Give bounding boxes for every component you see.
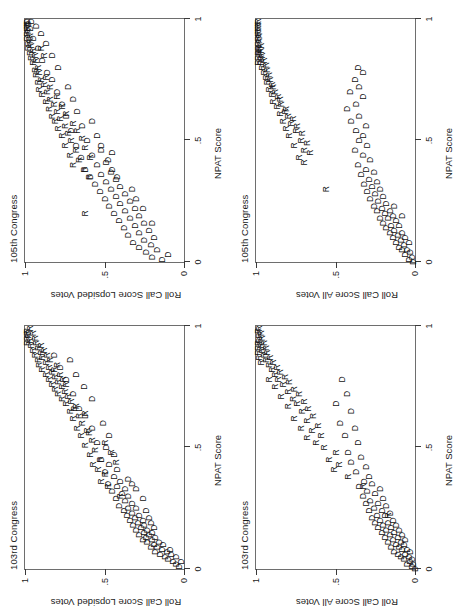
data-point-D: D <box>99 420 108 426</box>
data-point-D: D <box>379 193 388 199</box>
data-point-R: R <box>72 403 81 409</box>
data-point-R: R <box>57 103 66 109</box>
data-point-D: D <box>354 162 363 168</box>
data-point-R: R <box>95 457 104 463</box>
data-point-D: D <box>369 169 378 175</box>
data-point-R: R <box>37 342 46 348</box>
data-point-R: R <box>73 128 82 134</box>
data-point-R: R <box>111 459 120 465</box>
data-point-R: R <box>290 415 299 421</box>
data-point-D: D <box>361 123 370 129</box>
data-point-D: D <box>88 396 97 402</box>
panel-105th-lopsided: 105th Congress Roll Call Score Lopsided … <box>0 0 231 307</box>
data-point-D: D <box>108 150 117 156</box>
data-point-D: D <box>65 357 74 363</box>
data-point-D: D <box>358 94 367 100</box>
data-point-D: D <box>97 171 106 177</box>
data-point-R: R <box>62 381 71 387</box>
data-point-D: D <box>376 186 385 192</box>
data-point-D: D <box>129 239 138 245</box>
y-axis-tick-label: .5 <box>100 578 110 586</box>
y-axis-tick-label: 1 <box>20 578 30 583</box>
data-point-D: D <box>366 157 375 163</box>
panel-title: 105th Congress <box>239 195 250 263</box>
x-axis-tick-label: 1 <box>424 16 434 21</box>
data-point-D: D <box>145 227 154 233</box>
y-axis-tick <box>184 569 185 575</box>
panel-105th-all-votes: 105th Congress Roll Call Score All Votes… <box>231 0 462 307</box>
data-point-R: R <box>277 393 286 399</box>
data-point-R: R <box>299 398 308 404</box>
data-point-D: D <box>398 213 407 219</box>
data-point-D: D <box>100 196 109 202</box>
data-point-R: R <box>41 74 50 80</box>
y-axis-tick <box>105 262 106 268</box>
x-axis-label: NPAT Score <box>443 435 454 486</box>
data-point-R: R <box>64 130 73 136</box>
y-axis-tick-label: 0 <box>410 271 420 276</box>
x-axis-tick-label: 0 <box>193 566 203 571</box>
data-point-D: D <box>72 372 81 378</box>
data-point-R: R <box>309 413 318 419</box>
data-point-R: R <box>53 94 62 100</box>
data-point-R: R <box>22 21 31 27</box>
data-point-D: D <box>95 188 104 194</box>
data-point-D: D <box>113 466 122 472</box>
data-point-R: R <box>116 493 125 499</box>
data-point-R: R <box>81 210 90 216</box>
data-point-R: R <box>84 174 93 180</box>
data-point-R: R <box>72 147 81 153</box>
data-point-R: R <box>37 45 46 51</box>
y-axis-tick <box>256 569 257 575</box>
data-point-D: D <box>347 459 356 465</box>
data-point-D: D <box>355 113 364 119</box>
data-point-R: R <box>84 430 93 436</box>
x-axis-tick <box>184 261 190 262</box>
data-point-D: D <box>121 208 130 214</box>
y-axis-label: Roll Call Score Lopsided Votes <box>50 290 180 301</box>
data-point-D: D <box>361 464 370 470</box>
data-point-D: D <box>92 162 101 168</box>
data-point-R: R <box>344 474 353 480</box>
data-point-D: D <box>68 96 77 102</box>
x-axis-tick <box>184 568 190 569</box>
figure-canvas: 103rd Congress Roll Call Score Lopsided … <box>0 0 462 614</box>
data-point-D: D <box>124 476 133 482</box>
panel-grid: 103rd Congress Roll Call Score Lopsided … <box>0 0 462 614</box>
data-point-R: R <box>271 384 280 390</box>
data-point-D: D <box>97 142 106 148</box>
data-point-R: R <box>253 340 262 346</box>
data-point-R: R <box>290 386 299 392</box>
data-point-R: R <box>304 406 313 412</box>
y-axis-tick <box>336 262 337 268</box>
x-axis-tick-label: 1 <box>193 323 203 328</box>
x-axis-tick <box>184 447 190 448</box>
data-point-R: R <box>107 449 116 455</box>
y-axis-tick-label: 1 <box>251 271 261 276</box>
data-point-D: D <box>390 203 399 209</box>
x-axis-tick-label: .5 <box>424 137 434 145</box>
x-axis-label: NPAT Score <box>212 435 223 486</box>
data-point-R: R <box>303 435 312 441</box>
data-point-D: D <box>350 425 359 431</box>
data-point-D: D <box>331 401 340 407</box>
data-point-R: R <box>299 159 308 165</box>
data-point-D: D <box>92 133 101 139</box>
data-point-D: D <box>365 176 374 182</box>
data-point-R: R <box>296 425 305 431</box>
data-point-R: R <box>325 457 334 463</box>
data-point-D: D <box>350 147 359 153</box>
data-point-R: R <box>320 444 329 450</box>
data-point-R: R <box>322 186 331 192</box>
data-point-R: R <box>97 478 106 484</box>
x-axis-tick <box>184 18 190 19</box>
data-point-R: R <box>22 330 31 336</box>
x-axis-tick <box>184 325 190 326</box>
data-point-R: R <box>253 18 262 24</box>
x-axis-tick-label: .5 <box>193 444 203 452</box>
data-point-D: D <box>140 237 149 243</box>
data-point-R: R <box>264 376 273 382</box>
y-axis-tick-label: 1 <box>20 271 30 276</box>
panel-103rd-all-votes: 103rd Congress Roll Call Score All Votes… <box>231 307 462 614</box>
y-axis-tick <box>25 262 26 268</box>
